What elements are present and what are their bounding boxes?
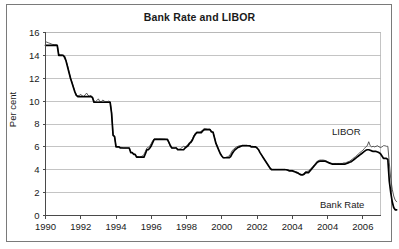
svg-text:1998: 1998 <box>176 221 197 232</box>
plot-area: 0246810121416 19901992199419961998200020… <box>0 0 399 249</box>
svg-text:1992: 1992 <box>70 221 91 232</box>
svg-text:2002: 2002 <box>247 221 268 232</box>
y-axis-tick-labels: 0246810121416 <box>29 27 40 221</box>
svg-text:1996: 1996 <box>141 221 162 232</box>
series-label-libor: LIBOR <box>332 126 361 137</box>
svg-text:1994: 1994 <box>105 221 126 232</box>
svg-text:12: 12 <box>29 73 40 84</box>
svg-text:0: 0 <box>34 210 39 221</box>
svg-text:16: 16 <box>29 27 40 38</box>
gridlines <box>46 33 381 216</box>
svg-text:10: 10 <box>29 96 40 107</box>
series-label-bank-rate: Bank Rate <box>320 199 364 210</box>
svg-text:2006: 2006 <box>352 221 373 232</box>
svg-text:2: 2 <box>34 187 39 198</box>
x-axis-tick-labels: 1990199219941996199820002002200420042006 <box>35 221 374 232</box>
svg-text:4: 4 <box>34 164 39 175</box>
svg-text:2004: 2004 <box>317 221 338 232</box>
svg-text:2000: 2000 <box>211 221 232 232</box>
svg-text:14: 14 <box>29 50 40 61</box>
axis-tick-marks <box>43 33 363 219</box>
chart-figure: Bank Rate and LIBOR Per cent 02468101214… <box>0 0 399 249</box>
series-line-libor <box>46 42 397 202</box>
svg-text:6: 6 <box>34 141 39 152</box>
svg-text:8: 8 <box>34 118 39 129</box>
svg-text:2004: 2004 <box>282 221 303 232</box>
svg-text:1990: 1990 <box>35 221 56 232</box>
